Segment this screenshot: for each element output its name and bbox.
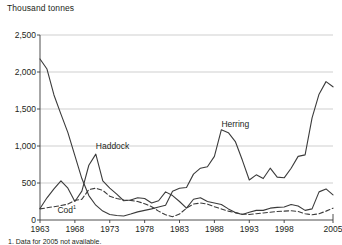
y-axis-tick-labels: 05001,0001,5002,0002,500 — [0, 0, 36, 245]
series-line-herring — [40, 59, 333, 216]
series-label-herring: Herring — [221, 119, 249, 129]
x-tick-label: 1973 — [100, 224, 119, 234]
x-tick-label: 1983 — [170, 224, 189, 234]
series-line-cod — [40, 188, 333, 216]
x-tick-label: 2005 — [324, 224, 342, 234]
x-tick-label: 1963 — [31, 224, 50, 234]
y-tick-label: 2,000 — [15, 67, 36, 77]
y-tick-label: 1,500 — [15, 104, 36, 114]
x-tick-label: 1988 — [205, 224, 224, 234]
series-line-haddock — [40, 154, 333, 214]
series-label-haddock: Haddock — [96, 141, 130, 151]
chart-footnote: 1. Data for 2005 not available. — [8, 238, 101, 245]
x-tick-label: 1968 — [65, 224, 84, 234]
x-tick-label: 1998 — [275, 224, 294, 234]
y-tick-label: 1,000 — [15, 141, 36, 151]
y-tick-label: 2,500 — [15, 30, 36, 40]
x-axis-tick-labels: 196319681973197819831988199319982005 — [0, 224, 339, 238]
x-tick-label: 1993 — [240, 224, 259, 234]
series-label-cod: Cod1 — [57, 204, 76, 215]
x-tick-label: 1978 — [135, 224, 154, 234]
cod-footnote-marker: 1 — [73, 204, 76, 210]
y-tick-label: 500 — [22, 178, 36, 188]
